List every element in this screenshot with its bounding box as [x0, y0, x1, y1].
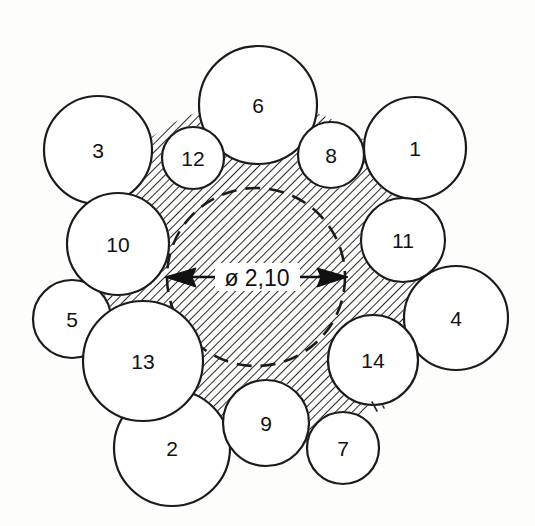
circle-label-13: 13 [131, 350, 154, 373]
packed-circle-14[interactable]: 14 [328, 315, 418, 405]
circle-label-11: 11 [392, 229, 414, 252]
packed-circle-8[interactable]: 8 [298, 122, 364, 188]
circle-label-7: 7 [337, 437, 349, 460]
packed-circle-9[interactable]: 9 [223, 380, 309, 466]
circle-label-12: 12 [181, 147, 204, 170]
circle-label-2: 2 [166, 437, 178, 460]
circle-label-5: 5 [66, 308, 78, 331]
diagram-canvas: 1234567891011121314 ø 2,10 [0, 0, 535, 526]
packed-circle-12[interactable]: 12 [162, 127, 224, 189]
packed-circle-11[interactable]: 11 [361, 198, 445, 282]
dimension-label: ø 2,10 [224, 265, 289, 291]
circle-label-8: 8 [325, 144, 337, 167]
circle-label-10: 10 [106, 233, 129, 256]
packed-circle-7[interactable]: 7 [307, 412, 379, 484]
circle-label-4: 4 [450, 307, 462, 330]
circle-label-3: 3 [92, 139, 104, 162]
circle-packing-figure: 1234567891011121314 ø 2,10 [0, 0, 535, 526]
circle-label-14: 14 [361, 349, 385, 372]
packed-circle-4[interactable]: 4 [404, 266, 508, 370]
circle-label-6: 6 [252, 94, 264, 117]
packed-circle-10[interactable]: 10 [67, 193, 169, 295]
circle-label-1: 1 [409, 137, 421, 160]
packed-circle-13[interactable]: 13 [83, 301, 203, 421]
packed-circle-1[interactable]: 1 [364, 97, 466, 199]
packed-circle-3[interactable]: 3 [44, 96, 152, 204]
circle-label-9: 9 [260, 412, 272, 435]
